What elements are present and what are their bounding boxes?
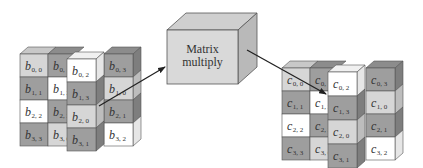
cell-letter: b xyxy=(72,110,78,124)
cell-letter: b xyxy=(25,128,31,142)
cell-letter: b xyxy=(109,128,115,142)
cell-index: 1, 3 xyxy=(339,108,350,116)
matrix-multiply-box: Matrix multiply xyxy=(167,13,257,84)
input-matrix-b: b0, 0b1, 1b2, 2b3, 3b0, 1b1, 2b2, 3b3, 0… xyxy=(20,47,141,151)
cell-index: 0, 2 xyxy=(339,84,350,92)
cell-index: 1, 3 xyxy=(79,94,90,102)
cell-index: 3, 3 xyxy=(293,149,304,157)
matrix-cell-b-2-2: b2, 2 xyxy=(20,100,48,123)
matrix-cell-c-1-1: c1, 1 xyxy=(282,91,310,114)
matrix-cell-b-0-0: b0, 0 xyxy=(20,54,48,77)
cell-letter: b xyxy=(53,105,59,119)
cell-index: 2, 1 xyxy=(377,126,388,134)
matrix-cell-c-2-2: c2, 2 xyxy=(282,114,310,137)
cell-index: 1, 1 xyxy=(293,103,304,111)
cell-letter: b xyxy=(53,59,59,73)
cell-letter: b xyxy=(109,82,115,96)
box-label-line1: Matrix xyxy=(186,42,219,56)
cell-index: 3, 2 xyxy=(377,149,388,157)
matrix-multiply-diagram: b0, 0b1, 1b2, 2b3, 3b0, 1b1, 2b2, 3b3, 0… xyxy=(0,0,423,168)
cell-index: 2, 1 xyxy=(116,112,127,120)
cell-index: 3, 1 xyxy=(79,140,90,148)
matrix-column-2: c0, 2c1, 3c2, 0c3, 1 xyxy=(328,65,365,168)
cell-letter: b xyxy=(72,64,78,78)
cell-letter: b xyxy=(25,82,31,96)
cell-index: 0, 0 xyxy=(32,66,43,74)
cell-letter: b xyxy=(53,82,59,96)
cell-index: 2, 2 xyxy=(32,112,43,120)
cell-index: 2, 0 xyxy=(79,117,90,125)
cell-letter: b xyxy=(25,59,31,73)
matrix-column-3: b0, 3b1, 0b2, 1b3, 2 xyxy=(104,47,141,146)
cell-index: 1, 1 xyxy=(32,89,43,97)
cell-index: 2, 0 xyxy=(339,132,350,140)
cell-index: 3, 3 xyxy=(32,135,43,143)
box-label-line2: multiply xyxy=(182,55,223,69)
cell-index: 3, 1 xyxy=(339,156,350,164)
cell-index: 0, 3 xyxy=(377,80,388,88)
cell-index: 3, 2 xyxy=(116,135,127,143)
diagram-canvas: b0, 0b1, 1b2, 2b3, 3b0, 1b1, 2b2, 3b3, 0… xyxy=(0,0,423,168)
cell-letter: b xyxy=(109,59,115,73)
cell-letter: b xyxy=(109,105,115,119)
cell-letter: b xyxy=(25,105,31,119)
matrix-cell-b-3-3: b3, 3 xyxy=(20,123,48,146)
cell-letter: b xyxy=(53,128,59,142)
cell-index: 2, 2 xyxy=(293,126,304,134)
output-matrix-c: c0, 0c1, 1c2, 2c3, 3c0, 1c1, 2c2, 3c3, 0… xyxy=(282,61,403,168)
matrix-cell-b-1-1: b1, 1 xyxy=(20,77,48,100)
cell-letter: b xyxy=(72,87,78,101)
cell-index: 0, 3 xyxy=(116,66,127,74)
cell-index: 1, 0 xyxy=(377,103,388,111)
matrix-column-3: c0, 3c1, 0c2, 1c3, 2 xyxy=(366,61,403,160)
cell-letter: b xyxy=(72,133,78,147)
matrix-cell-c-3-3: c3, 3 xyxy=(282,137,310,160)
matrix-column-2: b0, 2b1, 3b2, 0b3, 1 xyxy=(67,52,104,151)
cell-index: 0, 2 xyxy=(79,71,90,79)
